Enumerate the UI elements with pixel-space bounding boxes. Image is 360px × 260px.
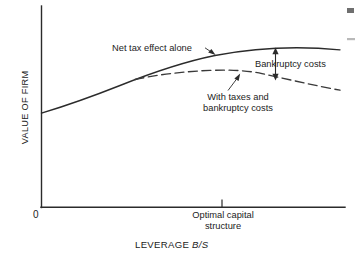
- arrow-head-net-tax: [208, 49, 215, 55]
- x-axis-tick-label-optimal: Optimal capital structure: [178, 210, 268, 232]
- x-axis-tick-label-line1: Optimal capital: [178, 210, 268, 221]
- figure-container: Net tax effect alone Bankruptcy costs Wi…: [0, 0, 360, 260]
- x-axis-tick-label-line2: structure: [178, 221, 268, 232]
- x-axis-title: LEVERAGE B/S: [135, 239, 208, 250]
- annotation-with-taxes-line2: bankruptcy costs: [190, 103, 286, 114]
- arrow-head-with-taxes: [234, 74, 240, 81]
- annotation-net-tax-effect: Net tax effect alone: [112, 43, 192, 54]
- annotation-bankruptcy-costs: Bankruptcy costs: [255, 59, 326, 70]
- annotation-with-taxes-line1: With taxes and: [190, 92, 286, 103]
- x-axis-title-symbol: B/S: [192, 239, 208, 250]
- page-artifact-mark-lower: [347, 38, 355, 40]
- origin-label: 0: [33, 209, 39, 221]
- x-axis-title-text: LEVERAGE: [135, 239, 192, 250]
- page-artifact-mark-upper: [347, 8, 354, 13]
- annotation-with-taxes-and-bankruptcy: With taxes and bankruptcy costs: [190, 92, 286, 114]
- y-axis-title: VALUE OF FIRM: [20, 60, 31, 154]
